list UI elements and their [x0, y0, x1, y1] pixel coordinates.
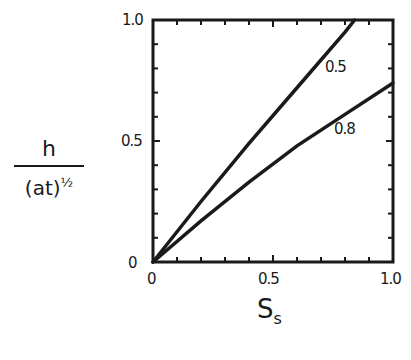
x-tick-0: 0 [147, 270, 156, 288]
curve-0.5 [153, 20, 355, 262]
y-axis-label: h (at)½ [14, 136, 84, 200]
curve-0.8 [153, 83, 393, 262]
curve-label-08: 0.8 [334, 120, 355, 138]
x-axis-label: Ss [257, 294, 282, 328]
y-tick-1: 1.0 [122, 11, 143, 29]
fraction-bar [14, 165, 84, 167]
curve-label-05: 0.5 [325, 58, 346, 76]
x-tick-05: 0.5 [258, 270, 279, 288]
x-tick-1: 1.0 [380, 270, 401, 288]
y-tick-0: 0 [128, 254, 137, 272]
y-tick-05: 0.5 [121, 132, 142, 150]
